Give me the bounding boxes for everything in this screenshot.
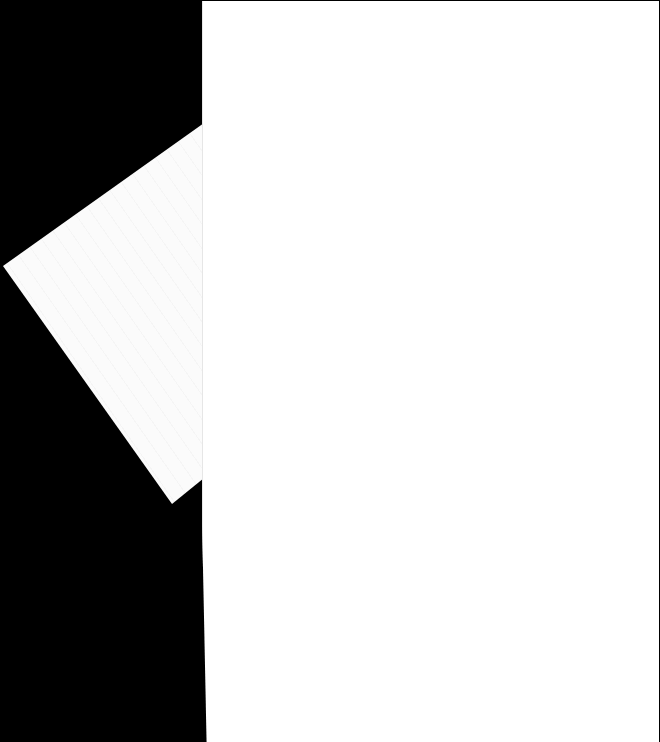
main-paper-sheet bbox=[202, 1, 659, 742]
